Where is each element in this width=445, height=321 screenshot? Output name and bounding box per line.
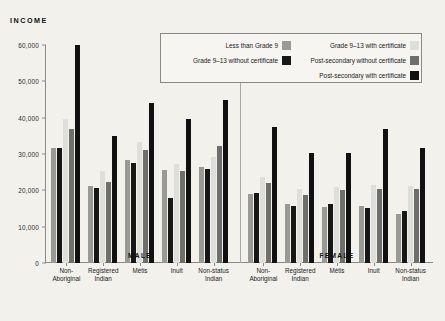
legend-column-left: Less than Grade 9Grade 9–13 without cert… [165, 39, 291, 66]
y-axis-tick-mark [42, 226, 46, 227]
bar [63, 119, 68, 263]
bar [420, 148, 425, 264]
y-axis-tick-label: 30,000 [5, 151, 39, 158]
x-axis-category-label: Non-statusIndian [382, 267, 440, 282]
y-axis-tick-mark [42, 263, 46, 264]
bar [186, 119, 191, 263]
legend-column-right: Grade 9–13 with certificatePost-secondar… [293, 39, 419, 81]
bar [125, 160, 130, 263]
bar [106, 182, 111, 263]
bar [223, 100, 228, 264]
legend-item-label: Less than Grade 9 [225, 42, 278, 49]
bar-group-bars [125, 45, 154, 263]
x-axis-tick-mark [177, 263, 178, 266]
bar [51, 148, 56, 264]
legend-item-label: Grade 9–13 with certificate [330, 42, 406, 49]
y-axis-tick-label: 0 [5, 260, 39, 267]
y-axis-tick-mark [42, 45, 46, 46]
panel-label-male: MALE [48, 252, 232, 259]
legend-item[interactable]: Grade 9–13 without certificate [165, 54, 291, 66]
x-axis-tick-mark [411, 263, 412, 266]
y-axis-tick-label: 40,000 [5, 114, 39, 121]
legend-item-label: Grade 9–13 without certificate [193, 57, 278, 64]
legend-item[interactable]: Post-secondary without certificate [293, 54, 419, 66]
y-axis-tick-mark [42, 190, 46, 191]
y-axis-tick-label: 50,000 [5, 78, 39, 85]
y-axis-tick-mark [42, 81, 46, 82]
bar [383, 129, 388, 263]
bar [174, 164, 179, 263]
y-axis-tick-label: 20,000 [5, 187, 39, 194]
bar-group-bars [51, 45, 80, 263]
x-axis-tick-mark [263, 263, 264, 266]
legend-swatch [410, 41, 419, 50]
bar [346, 153, 351, 264]
bar [149, 103, 154, 263]
bar [260, 177, 265, 264]
legend-swatch [410, 71, 419, 80]
x-axis-tick-mark [66, 263, 67, 266]
legend-swatch [282, 41, 291, 50]
bar [75, 45, 80, 263]
y-axis-tick-mark [42, 154, 46, 155]
bar [180, 171, 185, 263]
bar [309, 153, 314, 263]
legend-item-label: Post-secondary without certificate [310, 57, 406, 64]
bar-group-bars [88, 45, 117, 263]
bar [100, 171, 105, 263]
bar [131, 163, 136, 263]
x-axis-tick-mark [140, 263, 141, 266]
legend-item[interactable]: Less than Grade 9 [165, 39, 291, 51]
x-axis-tick-mark [103, 263, 104, 266]
bar-group [125, 45, 155, 263]
bar [143, 150, 148, 263]
bar [205, 169, 210, 264]
legend: Less than Grade 9Grade 9–13 without cert… [160, 33, 422, 83]
bar [69, 129, 74, 263]
bar [272, 127, 277, 263]
y-axis-tick-label: 10,000 [5, 223, 39, 230]
bar [199, 167, 204, 263]
bar [162, 170, 167, 263]
x-axis-tick-mark [374, 263, 375, 266]
legend-item[interactable]: Grade 9–13 with certificate [293, 39, 419, 51]
x-axis-tick-mark [214, 263, 215, 266]
panel-label-female: FEMALE [245, 252, 429, 259]
y-axis-title: INCOME [10, 16, 48, 25]
legend-swatch [282, 56, 291, 65]
bar [217, 146, 222, 263]
income-bar-chart: INCOME 010,00020,00030,00040,00050,00060… [0, 0, 445, 321]
legend-swatch [410, 56, 419, 65]
legend-item-label: Post-secondary with certificate [319, 72, 406, 79]
bar [112, 136, 117, 263]
bar-group [51, 45, 81, 263]
bar-group [88, 45, 118, 263]
bar [137, 142, 142, 263]
legend-item[interactable]: Post-secondary with certificate [293, 69, 419, 81]
y-axis-tick-label: 60,000 [5, 42, 39, 49]
x-axis-tick-mark [300, 263, 301, 266]
bar [57, 148, 62, 264]
y-axis-tick-mark [42, 117, 46, 118]
bar [211, 157, 216, 263]
x-axis-tick-mark [337, 263, 338, 266]
